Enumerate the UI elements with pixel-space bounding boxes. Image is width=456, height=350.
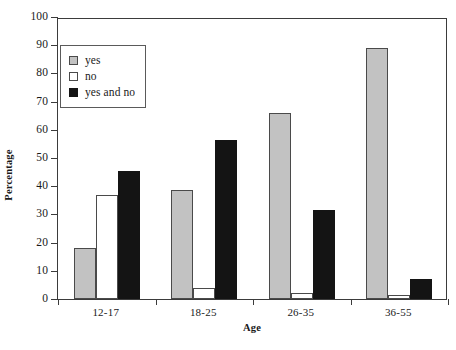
bar-no-12-17 bbox=[96, 195, 118, 299]
bar-yes-18-25 bbox=[171, 190, 193, 299]
x-tick-mark bbox=[253, 299, 254, 305]
y-tick-mark bbox=[51, 214, 58, 215]
y-tick-label: 30 bbox=[36, 209, 48, 221]
bar-yes-and-no-18-25 bbox=[215, 140, 237, 299]
bar-yes-36-55 bbox=[366, 48, 388, 299]
y-tick-mark bbox=[51, 45, 58, 46]
y-tick-label: 40 bbox=[36, 180, 48, 192]
y-tick-mark bbox=[51, 243, 58, 244]
x-tick-mark bbox=[351, 299, 352, 305]
bar-no-26-35 bbox=[291, 293, 313, 299]
legend-label: no bbox=[85, 71, 97, 83]
x-tick-mark bbox=[448, 299, 449, 305]
legend-swatch-icon bbox=[69, 72, 78, 81]
y-tick-mark bbox=[51, 73, 58, 74]
y-tick-label: 100 bbox=[30, 11, 48, 23]
legend-item-yes: yes bbox=[69, 53, 135, 68]
legend-item-yes-and-no: yes and no bbox=[69, 85, 135, 100]
legend-label: yes and no bbox=[85, 87, 135, 99]
y-tick-mark bbox=[51, 299, 58, 300]
bar-yes-and-no-26-35 bbox=[313, 210, 335, 299]
x-tick-label-18-25: 18-25 bbox=[190, 306, 217, 318]
bar-no-18-25 bbox=[193, 288, 215, 299]
y-tick-mark bbox=[51, 158, 58, 159]
x-tick-mark bbox=[58, 299, 59, 305]
bar-yes-and-no-12-17 bbox=[118, 171, 140, 299]
y-tick-mark bbox=[51, 130, 58, 131]
bar-yes-12-17 bbox=[74, 248, 96, 299]
x-tick-label-36-55: 36-55 bbox=[385, 306, 412, 318]
y-tick-label: 20 bbox=[36, 237, 48, 249]
legend-label: yes bbox=[85, 55, 101, 67]
x-tick-mark bbox=[156, 299, 157, 305]
x-tick-label-26-35: 26-35 bbox=[287, 306, 314, 318]
y-axis-title: Percentage bbox=[3, 149, 14, 200]
y-tick-label: 60 bbox=[36, 124, 48, 136]
legend-item-no: no bbox=[69, 69, 135, 84]
y-tick-mark bbox=[51, 271, 58, 272]
y-tick-mark bbox=[51, 186, 58, 187]
bar-yes-and-no-36-55 bbox=[410, 279, 432, 299]
x-tick-label-12-17: 12-17 bbox=[92, 306, 119, 318]
y-tick-mark bbox=[51, 102, 58, 103]
legend-swatch-icon bbox=[69, 88, 78, 97]
y-tick-label: 50 bbox=[36, 152, 48, 164]
y-tick-mark bbox=[51, 17, 58, 18]
x-axis-title: Age bbox=[243, 322, 261, 333]
y-tick-label: 80 bbox=[36, 68, 48, 80]
bar-yes-26-35 bbox=[269, 113, 291, 299]
y-tick-label: 10 bbox=[36, 265, 48, 277]
y-tick-label: 0 bbox=[42, 293, 48, 305]
legend-swatch-icon bbox=[69, 56, 78, 65]
chart-legend: yesnoyes and no bbox=[60, 45, 146, 108]
bar-no-36-55 bbox=[388, 295, 410, 299]
bar-chart: Percentage 0102030405060708090100 12-171… bbox=[0, 0, 456, 350]
y-tick-label: 70 bbox=[36, 96, 48, 108]
y-tick-label: 90 bbox=[36, 39, 48, 51]
